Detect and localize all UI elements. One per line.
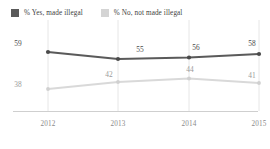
line-chart: % Yes, made illegal % No, not made illeg… — [0, 0, 270, 149]
square-swatch-icon — [101, 9, 109, 17]
data-point — [187, 55, 191, 59]
data-point — [187, 77, 191, 81]
series-points-no — [46, 77, 261, 91]
value-label: 58 — [248, 39, 256, 48]
plot-svg: 59 55 56 58 38 42 44 41 2012 2013 2014 2… — [0, 20, 270, 149]
data-point — [257, 52, 261, 56]
x-tick-label: 2013 — [110, 120, 125, 128]
data-point — [46, 87, 50, 91]
square-swatch-icon — [11, 9, 19, 17]
legend-item-label: % No, not made illegal — [114, 9, 183, 17]
x-tick-label: 2012 — [40, 120, 55, 128]
data-point — [257, 81, 261, 85]
legend-item-yes[interactable]: % Yes, made illegal — [11, 9, 83, 17]
value-label: 55 — [136, 45, 144, 54]
value-label: 42 — [105, 70, 113, 79]
series-line-no — [48, 79, 259, 90]
data-point — [116, 57, 120, 61]
series-line-yes — [48, 52, 259, 59]
value-label: 41 — [248, 71, 256, 80]
value-labels-no: 38 42 44 41 — [14, 65, 256, 89]
value-label: 38 — [14, 80, 22, 89]
value-label: 59 — [14, 39, 22, 48]
x-tick-label: 2015 — [251, 120, 266, 128]
data-point — [116, 80, 120, 84]
x-axis-tick-labels: 2012 2013 2014 2015 — [40, 120, 266, 128]
value-label: 56 — [192, 43, 200, 52]
gridlines — [48, 20, 259, 111]
legend-item-label: % Yes, made illegal — [24, 9, 83, 17]
legend-item-no[interactable]: % No, not made illegal — [101, 9, 183, 17]
data-point — [46, 50, 50, 54]
value-label: 44 — [186, 65, 194, 74]
x-tick-label: 2014 — [181, 120, 196, 128]
plot-area: 59 55 56 58 38 42 44 41 2012 2013 2014 2… — [0, 20, 270, 149]
